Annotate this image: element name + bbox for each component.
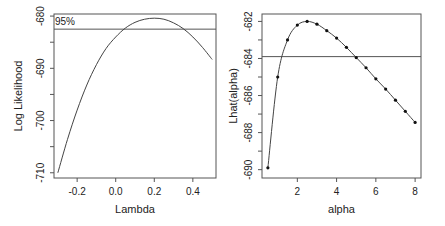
- data-point: [335, 36, 338, 39]
- plot-frame: [54, 14, 216, 178]
- x-axis-label: Lambda: [115, 203, 156, 215]
- y-tick-label: -700: [35, 110, 46, 130]
- x-tick-label: 0.4: [186, 186, 200, 197]
- data-point: [276, 75, 279, 78]
- x-tick-label: 8: [412, 186, 418, 197]
- x-tick-label: -0.2: [69, 186, 87, 197]
- hline-label: 95%: [55, 16, 75, 27]
- x-tick-label: 6: [373, 186, 379, 197]
- y-tick-label: -690: [243, 159, 254, 179]
- right-plot-alpha-lhat: 2468-682-684-686-688-690alphaLhat(alpha): [227, 11, 421, 215]
- data-point: [355, 56, 358, 59]
- x-tick-label: 2: [295, 186, 301, 197]
- y-axis-label: Log Likelihood: [12, 61, 24, 132]
- y-tick-label: -686: [243, 85, 254, 105]
- data-point: [306, 20, 309, 23]
- x-axis-label: alpha: [328, 203, 356, 215]
- data-point: [374, 77, 377, 80]
- y-tick-label: -688: [243, 122, 254, 142]
- x-tick-label: 0.0: [109, 186, 123, 197]
- data-point: [414, 121, 417, 124]
- y-axis-label: Lhat(alpha): [227, 68, 239, 124]
- series-line: [268, 21, 415, 167]
- data-point: [286, 38, 289, 41]
- x-tick-label: 0.2: [147, 186, 161, 197]
- y-tick-label: -710: [35, 162, 46, 182]
- data-point: [345, 46, 348, 49]
- y-tick-label: -690: [35, 58, 46, 78]
- data-point: [364, 66, 367, 69]
- series-line: [58, 18, 212, 173]
- data-point: [394, 99, 397, 102]
- plot-frame: [262, 14, 421, 178]
- y-tick-label: -680: [35, 6, 46, 26]
- data-point: [315, 23, 318, 26]
- data-point: [384, 87, 387, 90]
- x-tick-label: 4: [334, 186, 340, 197]
- left-plot-lambda-loglik: -0.20.00.20.4-680-690-700-710LambdaLog L…: [12, 6, 216, 215]
- data-point: [266, 166, 269, 169]
- y-tick-label: -682: [243, 11, 254, 31]
- y-tick-label: -684: [243, 48, 254, 68]
- data-point: [296, 24, 299, 27]
- data-point: [325, 29, 328, 32]
- data-point: [404, 110, 407, 113]
- figure: -0.20.00.20.4-680-690-700-710LambdaLog L…: [0, 0, 445, 226]
